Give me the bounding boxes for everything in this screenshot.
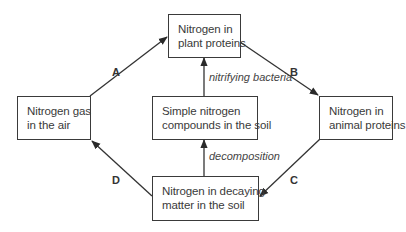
node-simple-compounds: Simple nitrogen compounds in the soil — [152, 96, 258, 140]
node-label-line2: compounds in the soil — [162, 118, 257, 132]
node-label-line1: Nitrogen in — [178, 22, 240, 36]
node-label-line1: Simple nitrogen — [162, 104, 257, 118]
node-animal-proteins: Nitrogen in animal proteins — [319, 96, 393, 140]
arrow-a — [90, 37, 167, 96]
arrow-d — [92, 141, 152, 196]
edge-label-decomposition: decomposition — [209, 150, 280, 162]
node-plant-proteins: Nitrogen in plant proteins — [168, 14, 241, 58]
node-label-line2: plant proteins — [178, 36, 240, 50]
edge-label-d: D — [112, 174, 120, 186]
node-decaying-matter: Nitrogen in decaying matter in the soil — [152, 176, 259, 221]
edge-label-a: A — [112, 66, 120, 78]
edge-label-c: C — [290, 174, 298, 186]
node-label-line1: Nitrogen in decaying — [162, 184, 258, 198]
node-label-line2: in the air — [27, 118, 90, 132]
node-label-line1: Nitrogen in — [329, 104, 392, 118]
arrow-c — [260, 139, 320, 196]
edge-label-nitrifying-bacteria: nitrifying bacteria — [209, 71, 292, 83]
node-nitrogen-gas: Nitrogen gas in the air — [17, 96, 91, 140]
node-label-line1: Nitrogen gas — [27, 104, 90, 118]
arrow-b — [240, 42, 318, 95]
node-label-line2: animal proteins — [329, 118, 392, 132]
node-label-line2: matter in the soil — [162, 198, 258, 212]
